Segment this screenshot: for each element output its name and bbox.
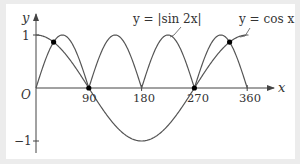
origin-label: O bbox=[21, 88, 31, 102]
sin-label-leader bbox=[170, 27, 181, 37]
x-axis-label: x bbox=[278, 80, 286, 95]
x-tick-label-270: 270 bbox=[187, 91, 209, 105]
intersection-point-330 bbox=[227, 40, 232, 45]
cos-curve-label: y = cos x bbox=[238, 12, 294, 26]
chart-svg: y x O 1 −1 90 180 270 360 y = |sin 2x| y… bbox=[0, 0, 300, 164]
intersection-point-30 bbox=[51, 40, 56, 45]
sin-curve-label: y = |sin 2x| bbox=[132, 12, 202, 26]
x-tick-label-360: 360 bbox=[239, 91, 261, 105]
intersection-point-90 bbox=[86, 85, 91, 90]
y-axis-label: y bbox=[21, 10, 30, 25]
y-tick-label-1: 1 bbox=[22, 29, 30, 43]
y-tick-label-neg1: −1 bbox=[14, 134, 32, 148]
x-tick-label-90: 90 bbox=[82, 91, 97, 105]
sin-curve bbox=[36, 35, 247, 88]
x-tick-label-180: 180 bbox=[133, 91, 155, 105]
intersection-point-270 bbox=[192, 85, 197, 90]
